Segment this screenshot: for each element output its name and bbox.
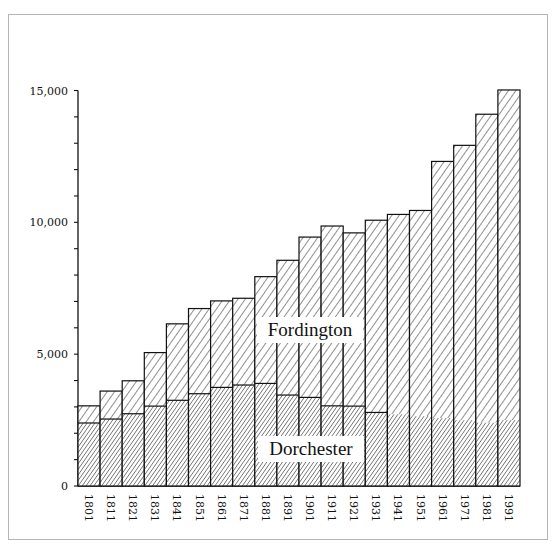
x-axis-labels: 1801181118211831184118511861187118811891… bbox=[82, 494, 515, 522]
bar-1841 bbox=[166, 324, 188, 486]
x-tick-label: 1881 bbox=[259, 494, 272, 522]
dorchester-segment bbox=[410, 416, 432, 486]
fordington-segment bbox=[78, 406, 100, 423]
y-tick-label: 10,000 bbox=[30, 216, 69, 229]
x-tick-label: 1901 bbox=[303, 494, 316, 522]
fordington-segment bbox=[387, 214, 409, 414]
bar-1801 bbox=[78, 406, 100, 486]
x-tick-label: 1821 bbox=[126, 494, 139, 522]
x-tick-label: 1951 bbox=[414, 494, 427, 522]
x-tick-label: 1981 bbox=[480, 494, 493, 522]
x-tick-label: 1961 bbox=[436, 494, 449, 522]
bar-1931 bbox=[365, 220, 387, 486]
dorchester-segment bbox=[387, 414, 409, 486]
bar-1821 bbox=[122, 381, 144, 486]
x-tick-label: 1971 bbox=[458, 494, 471, 522]
bar-1951 bbox=[410, 210, 432, 486]
dorchester-segment bbox=[211, 387, 233, 486]
fordington-label: Fordington bbox=[257, 317, 363, 343]
x-tick-label: 1921 bbox=[347, 494, 360, 522]
svg-text:Fordington: Fordington bbox=[268, 319, 353, 340]
fordington-segment bbox=[144, 353, 166, 407]
bar-1831 bbox=[144, 353, 166, 486]
bar-1811 bbox=[100, 391, 122, 486]
fordington-segment bbox=[498, 90, 520, 420]
fordington-segment bbox=[454, 145, 476, 420]
svg-text:Dorchester: Dorchester bbox=[269, 438, 353, 459]
dorchester-segment bbox=[476, 423, 498, 486]
dorchester-segment bbox=[233, 385, 255, 486]
y-tick-label: 0 bbox=[61, 480, 68, 493]
dorchester-segment bbox=[189, 394, 211, 486]
fordington-segment bbox=[321, 226, 343, 406]
y-tick-label: 5,000 bbox=[37, 348, 69, 361]
fordington-segment bbox=[122, 381, 144, 414]
x-tick-label: 1801 bbox=[82, 494, 95, 522]
dorchester-segment bbox=[255, 383, 277, 486]
x-tick-label: 1851 bbox=[193, 494, 206, 522]
bar-1861 bbox=[211, 301, 233, 486]
x-tick-label: 1891 bbox=[281, 494, 294, 522]
dorchester-segment bbox=[122, 414, 144, 486]
bar-1981 bbox=[476, 114, 498, 486]
fordington-segment bbox=[410, 210, 432, 416]
dorchester-segment bbox=[365, 412, 387, 486]
x-tick-label: 1871 bbox=[237, 494, 250, 522]
bar-1971 bbox=[454, 145, 476, 486]
x-tick-label: 1941 bbox=[391, 494, 404, 522]
y-tick-label: 15,000 bbox=[30, 85, 69, 98]
bar-1851 bbox=[189, 309, 211, 486]
dorchester-segment bbox=[432, 418, 454, 486]
dorchester-segment bbox=[166, 400, 188, 486]
dorchester-label: Dorchester bbox=[258, 436, 364, 462]
dorchester-segment bbox=[100, 419, 122, 486]
dorchester-segment bbox=[454, 420, 476, 486]
dorchester-segment bbox=[144, 406, 166, 486]
fordington-segment bbox=[189, 309, 211, 394]
bar-1871 bbox=[233, 298, 255, 486]
fordington-segment bbox=[233, 298, 255, 385]
fordington-segment bbox=[365, 220, 387, 412]
dorchester-segment bbox=[498, 420, 520, 486]
x-tick-label: 1931 bbox=[369, 494, 382, 522]
x-tick-label: 1811 bbox=[104, 494, 117, 522]
x-tick-label: 1911 bbox=[325, 494, 338, 522]
x-tick-label: 1841 bbox=[170, 494, 183, 522]
bar-1941 bbox=[387, 214, 409, 486]
fordington-segment bbox=[432, 161, 454, 418]
bars-group bbox=[78, 90, 520, 486]
bar-1991 bbox=[498, 90, 520, 486]
x-tick-label: 1861 bbox=[215, 494, 228, 522]
bar-1961 bbox=[432, 161, 454, 486]
fordington-segment bbox=[166, 324, 188, 400]
dorchester-segment bbox=[78, 423, 100, 486]
fordington-segment bbox=[211, 301, 233, 387]
stacked-bar-chart: 05,00010,00015,000 180118111821183118411… bbox=[0, 0, 556, 551]
fordington-segment bbox=[100, 391, 122, 419]
x-tick-label: 1991 bbox=[502, 494, 515, 522]
fordington-segment bbox=[476, 114, 498, 422]
x-tick-label: 1831 bbox=[148, 494, 161, 522]
